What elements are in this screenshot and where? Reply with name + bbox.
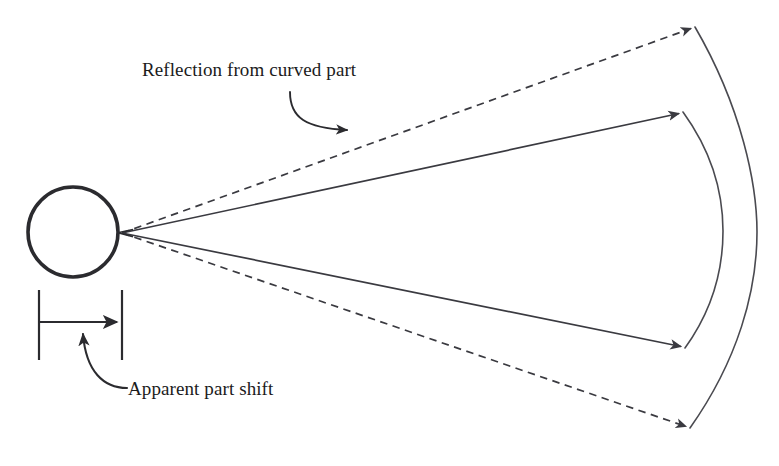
solid-ray-lower [122,233,681,347]
diagram-svg [0,0,779,466]
diagram-canvas: Reflection from curved part Apparent par… [0,0,779,466]
apparent-shift-label: Apparent part shift [128,379,273,398]
reflection-label: Reflection from curved part [142,60,356,79]
solid-ray-upper [122,114,679,234]
reflection-leader [290,92,347,130]
part-circle [28,187,118,277]
apparent-shift-leader [83,334,127,388]
inner-arc [683,112,723,348]
